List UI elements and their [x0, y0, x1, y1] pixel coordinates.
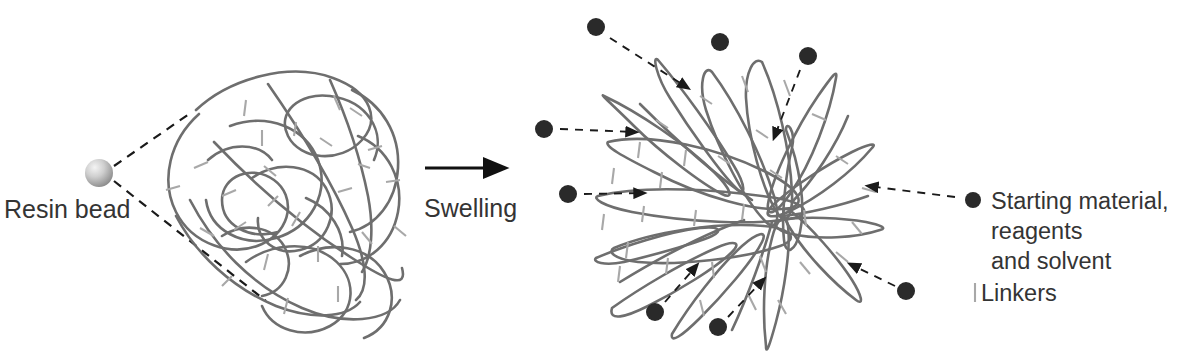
particle-dot — [559, 185, 577, 203]
legend-item-0-line-1: reagents — [991, 218, 1082, 244]
swelling-process: Swelling — [424, 168, 517, 222]
particle-dot — [897, 282, 915, 300]
resin-bead-sphere — [85, 159, 113, 187]
legend-item-0-line-2: and solvent — [991, 248, 1112, 274]
resin-bead-label: Resin bead — [4, 195, 130, 223]
particle-dot — [709, 318, 727, 336]
particle-dot — [587, 18, 605, 36]
particle-dot — [535, 120, 553, 138]
legend-particle-marker — [965, 192, 981, 208]
swelling-label: Swelling — [424, 194, 517, 222]
polymer-chains-collapsed — [168, 72, 403, 338]
resin-swelling-figure: Swelling Resin bead — [0, 0, 1180, 354]
legend-item-0-line-0: Starting material, — [991, 188, 1169, 214]
particle-dot — [711, 33, 729, 51]
diagram-canvas: Swelling Resin bead — [0, 0, 1180, 354]
particle-dot — [799, 47, 817, 65]
particle-dot — [646, 303, 664, 321]
unswollen-network — [166, 72, 406, 338]
legend: Starting material, reagents and solvent … — [965, 188, 1169, 306]
magnifier-guides — [114, 112, 266, 301]
particles-group — [535, 18, 955, 336]
legend-item-1-line-0: Linkers — [981, 280, 1057, 306]
